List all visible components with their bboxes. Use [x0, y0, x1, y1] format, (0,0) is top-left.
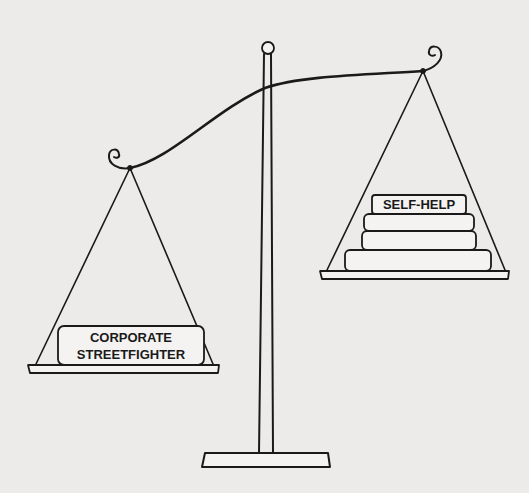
- book-title-line1: CORPORATE: [90, 330, 172, 345]
- scale-beam: [109, 47, 441, 171]
- scale-base: [202, 453, 330, 467]
- balance-scale-illustration: CORPORATE STREETFIGHTER SELF-HELP: [0, 0, 529, 493]
- book-title-self-help: SELF-HELP: [383, 197, 456, 212]
- book-title-line2: STREETFIGHTER: [77, 347, 186, 362]
- scale-post: [259, 42, 274, 453]
